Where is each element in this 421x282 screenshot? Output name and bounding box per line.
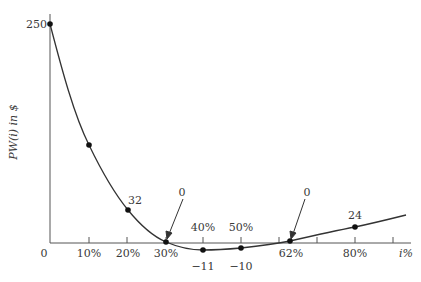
y-axis-label: PW(i) in $ [7, 104, 20, 160]
origin-label: 0 [41, 247, 48, 260]
x-axis-label: i% [399, 247, 413, 260]
x-tick-label-62: 62% [279, 247, 303, 260]
npv-chart: 250 0 10% 20% 30% 40% 50% 62% 80% i% 32 … [0, 0, 421, 282]
x-tick-label-30: 30% [154, 247, 178, 260]
value-label-50: −10 [229, 260, 252, 273]
x-tick-label-80: 80% [343, 247, 367, 260]
y-max-label: 250 [26, 18, 47, 31]
value-label-80: 24 [348, 209, 362, 222]
x-tick-label-10: 10% [77, 247, 101, 260]
x-tick-label-40: 40% [191, 221, 215, 234]
data-points [47, 21, 358, 253]
x-ticks [89, 237, 393, 243]
value-label-40: −11 [191, 260, 214, 273]
x-tick-label-20: 20% [116, 247, 140, 260]
value-label-20: 32 [128, 194, 142, 207]
x-tick-label-50: 50% [229, 221, 253, 234]
zero-label-2: 0 [304, 186, 311, 199]
zero-label-1: 0 [179, 186, 186, 199]
